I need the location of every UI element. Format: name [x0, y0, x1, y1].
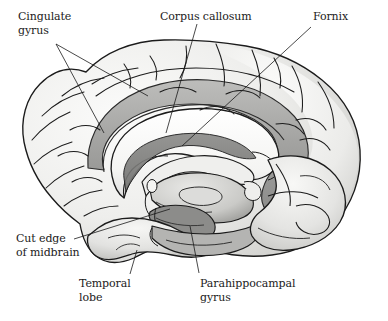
label-fornix: Fornix [313, 10, 348, 24]
label-parahippocampal-gyrus: Parahippocampal gyrus [200, 277, 295, 304]
label-temporal-lobe: Temporal lobe [79, 277, 131, 304]
brain-anatomy-figure [0, 0, 388, 321]
anterior-commissure [147, 180, 157, 193]
label-cingulate-gyrus: Cingulate gyrus [18, 10, 71, 37]
label-corpus-callosum: Corpus callosum [160, 10, 252, 24]
label-cut-edge-of-midbrain: Cut edge of midbrain [16, 232, 80, 259]
